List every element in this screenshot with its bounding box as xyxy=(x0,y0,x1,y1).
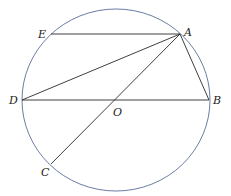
label-o: O xyxy=(113,106,122,119)
segment-ab xyxy=(180,34,209,100)
label-c: C xyxy=(41,166,50,179)
label-e: E xyxy=(37,28,46,41)
segment-ad xyxy=(22,34,180,100)
segment-ac xyxy=(51,34,180,164)
geometry-diagram: E A D B O C xyxy=(0,0,231,196)
label-a: A xyxy=(183,26,192,39)
label-d: D xyxy=(8,94,18,107)
label-b: B xyxy=(212,94,221,107)
